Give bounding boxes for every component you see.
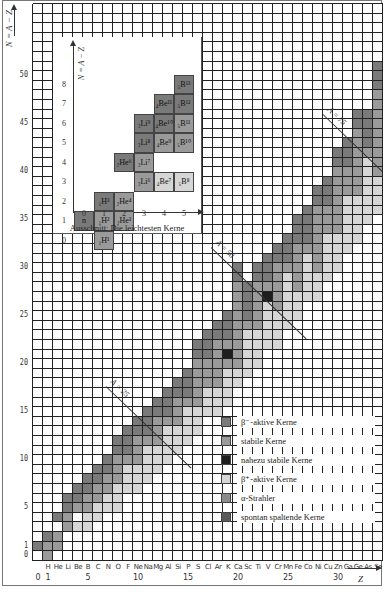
nuclide-cell (213, 42, 223, 52)
nuclide-cell (63, 426, 73, 436)
nuclide-cell (33, 148, 43, 158)
nuclide-cell (33, 426, 43, 436)
nuclide-cell (133, 455, 143, 465)
nuclide-cell (223, 206, 233, 216)
nuclide-cell (293, 369, 303, 379)
nuclide-cell (123, 234, 133, 244)
x-element-label: Na (143, 563, 153, 571)
nuclide-cell (143, 542, 153, 552)
nuclide-cell (363, 42, 373, 52)
nuclide-cell (203, 532, 213, 542)
x-element-label: B (83, 563, 93, 571)
nuclide-cell (313, 129, 323, 139)
nuclide-cell (153, 407, 163, 417)
nuclide-cell (253, 234, 263, 244)
nuclide-cell (303, 542, 313, 552)
nuclide-cell (193, 292, 203, 302)
nuclide-cell (243, 62, 253, 72)
nuclide-cell (173, 465, 183, 475)
nuclide-cell (263, 350, 273, 360)
nuclide-cell (183, 474, 193, 484)
nuclide-cell (343, 158, 353, 168)
nuclide-cell (153, 398, 163, 408)
nuclide-cell (193, 426, 203, 436)
nuclide-cell (293, 542, 303, 552)
nuclide-cell (113, 494, 123, 504)
nuclide-cell (93, 23, 103, 33)
nuclide-cell (83, 542, 93, 552)
nuclide-cell (363, 119, 373, 129)
nuclide-cell (143, 407, 153, 417)
nuclide-cell (323, 4, 333, 14)
nuclide-cell (263, 330, 273, 340)
nuclide-cell (73, 14, 83, 24)
nuclide-cell (273, 119, 283, 129)
nuclide-cell (213, 158, 223, 168)
nuclide-cell (73, 388, 83, 398)
nuclide-cell (293, 148, 303, 158)
nuclide-cell (43, 81, 53, 91)
nuclide-cell (223, 273, 233, 283)
nuclide-cell (353, 254, 363, 264)
nuclide-cell (303, 215, 313, 225)
nuclide-cell (63, 302, 73, 312)
nuclide-cell (113, 426, 123, 436)
nuclide-cell (123, 14, 133, 24)
nuclide-cell (303, 148, 313, 158)
nuclide-cell (93, 14, 103, 24)
nuclide-cell (163, 455, 173, 465)
legend-item-alpha: α-Strahler (221, 492, 375, 504)
nuclide-cell (213, 369, 223, 379)
nuclide-cell (263, 81, 273, 91)
nuclide-cell (173, 436, 183, 446)
nuclide-cell (283, 62, 293, 72)
nuclide-cell (333, 206, 343, 216)
nuclide-cell (333, 62, 343, 72)
nuclide-cell (323, 52, 333, 62)
nuclide-cell (153, 273, 163, 283)
nuclide-cell (293, 167, 303, 177)
nuclide-cell (293, 292, 303, 302)
nuclide-cell (213, 33, 223, 43)
nuclide-cell (313, 158, 323, 168)
legend-swatch (221, 417, 231, 427)
nuclide-cell (343, 33, 353, 43)
nuclide-cell (333, 542, 343, 552)
nuclide-cell (343, 398, 353, 408)
nuclide-cell (243, 148, 253, 158)
nuclide-cell (353, 273, 363, 283)
nuclide-cell (343, 378, 353, 388)
nuclide-cell (183, 513, 193, 523)
x-tick-label: 20 (231, 573, 245, 582)
nuclide-cell (253, 186, 263, 196)
nuclide-cell (83, 321, 93, 331)
nuclide-cell (93, 474, 103, 484)
nuclide-cell (83, 474, 93, 484)
nuclide-cell (283, 542, 293, 552)
nuclide-cell (253, 129, 263, 139)
nuclide-cell (263, 4, 273, 14)
nuclide-cell (193, 321, 203, 331)
nuclide-cell (293, 311, 303, 321)
nuclide-cell (363, 350, 373, 360)
nuclide-cell (43, 167, 53, 177)
nuclide-cell (193, 302, 203, 312)
inset-x-tick: 0 (79, 209, 89, 218)
nuclide-cell (93, 522, 103, 532)
nuclide-cell (243, 311, 253, 321)
nuclide-cell (193, 263, 203, 273)
nuclide-cell (173, 398, 183, 408)
nuclide-cell (293, 110, 303, 120)
inset-nuclide-cell: ₄Be¹⁰ (154, 114, 174, 134)
nuclide-cell (273, 42, 283, 52)
nuclide-cell (53, 522, 63, 532)
nuclide-cell (113, 244, 123, 254)
nuclide-cell (173, 484, 183, 494)
nuclide-cell (213, 129, 223, 139)
nuclide-cell (323, 167, 333, 177)
nuclide-cell (153, 378, 163, 388)
nuclide-cell (253, 254, 263, 264)
nuclide-cell (243, 350, 253, 360)
nuclide-cell (303, 100, 313, 110)
nuclide-cell (333, 225, 343, 235)
